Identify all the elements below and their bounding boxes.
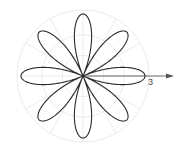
polar-rose-chart: 3 [0, 0, 180, 144]
axis-tick-label: 3 [148, 77, 153, 87]
axis-arrow-icon [166, 74, 174, 79]
